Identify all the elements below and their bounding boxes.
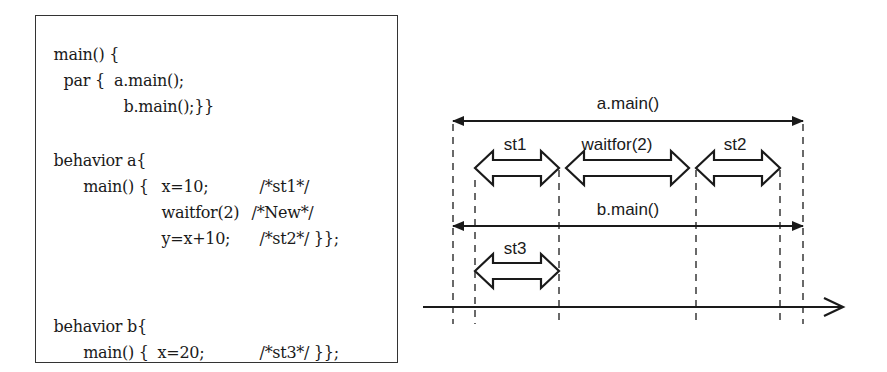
span-b-main-label: b.main() [597, 200, 659, 219]
span-a-main-label: a.main() [597, 94, 659, 113]
block-arrow-st3 [475, 254, 559, 288]
block-label-waitfor: waitfor(2) [581, 135, 653, 154]
block-label-st3: st3 [504, 239, 527, 258]
block-label-st1: st1 [504, 135, 527, 154]
block-arrow-st2 [696, 151, 780, 185]
timing-diagram: a.main() b.main() st1 waitfor(2) st2 st3 [0, 0, 887, 372]
block-label-st2: st2 [724, 135, 747, 154]
block-arrow-waitfor [566, 151, 689, 185]
block-arrow-st1 [475, 151, 559, 185]
dashed-guides [453, 124, 803, 324]
